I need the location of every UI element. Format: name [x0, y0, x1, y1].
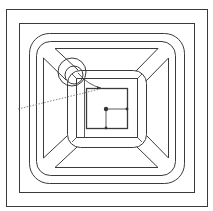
tool-circle-large: [58, 58, 86, 86]
bottom-point: [105, 127, 108, 130]
right-point: [126, 108, 129, 111]
cad-drawing: cad-top-view: [0, 0, 213, 211]
center-point: [104, 107, 108, 111]
dashed-leader-line: [18, 89, 100, 109]
